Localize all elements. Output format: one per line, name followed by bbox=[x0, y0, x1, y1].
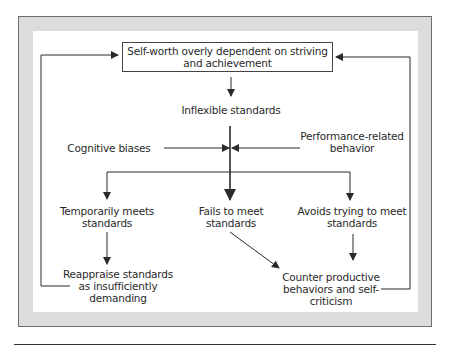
node-temporarily-line2: standards bbox=[57, 217, 157, 229]
arrow-fails-to-counter bbox=[230, 232, 279, 268]
node-avoids-line1: Avoids trying to meet bbox=[293, 205, 411, 217]
bottom-rule bbox=[14, 344, 436, 345]
node-cognitive-biases: Cognitive biases bbox=[64, 142, 154, 154]
node-reappraise-line1: Reappraise standards bbox=[62, 268, 174, 280]
node-temporarily-meets: Temporarily meets standards bbox=[57, 205, 157, 229]
feedback-left bbox=[41, 55, 118, 286]
node-performance-line1: Performance-related bbox=[300, 130, 404, 142]
node-performance-line2: behavior bbox=[300, 142, 404, 154]
node-reappraise-line2: as insufficiently bbox=[62, 280, 174, 292]
node-avoids-trying: Avoids trying to meet standards bbox=[293, 205, 411, 229]
node-self-worth: Self-worth overly dependent on striving … bbox=[122, 45, 333, 69]
node-inflexible-standards: Inflexible standards bbox=[170, 104, 292, 116]
feedback-right bbox=[336, 57, 410, 289]
node-self-worth-line2: and achievement bbox=[122, 57, 333, 69]
node-counter-line3: criticism bbox=[278, 295, 384, 307]
node-fails-line2: standards bbox=[190, 217, 272, 229]
node-counter-line2: behaviors and self- bbox=[278, 283, 384, 295]
node-fails-line1: Fails to meet bbox=[190, 205, 272, 217]
node-reappraise-standards: Reappraise standards as insufficiently d… bbox=[62, 268, 174, 304]
node-self-worth-line1: Self-worth overly dependent on striving bbox=[122, 45, 333, 57]
node-temporarily-line1: Temporarily meets bbox=[57, 205, 157, 217]
node-performance-behavior: Performance-related behavior bbox=[300, 130, 404, 154]
node-fails-to-meet: Fails to meet standards bbox=[190, 205, 272, 229]
node-avoids-line2: standards bbox=[293, 217, 411, 229]
node-counterproductive: Counter productive behaviors and self- c… bbox=[278, 271, 384, 307]
node-reappraise-line3: demanding bbox=[62, 292, 174, 304]
node-counter-line1: Counter productive bbox=[278, 271, 384, 283]
